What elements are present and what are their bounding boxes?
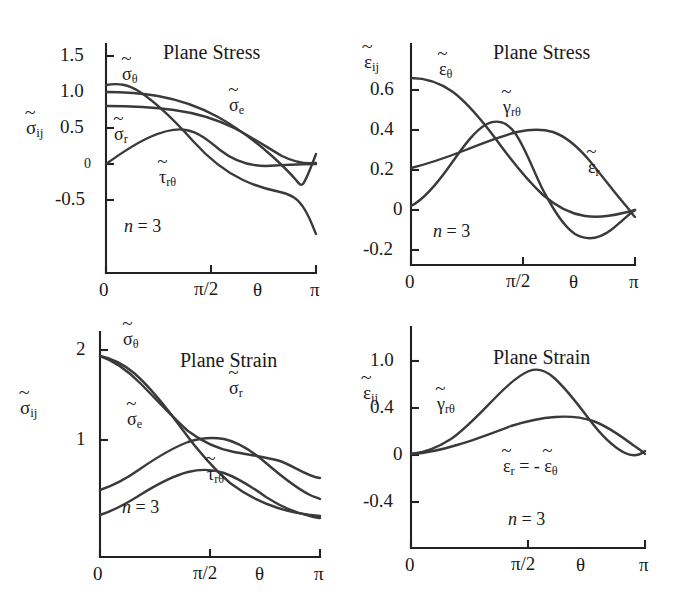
curve-sigma-theta	[100, 356, 320, 516]
panel-bottom-left: σij 2 1 0 π/2 π θ Plane Strain σθ σr σe …	[0, 305, 345, 609]
y-ticklabel-0: 1.0	[370, 350, 394, 369]
x-ticklabel-2: π	[639, 555, 649, 574]
curve-label-gamma-rtheta: γrθ	[437, 395, 455, 415]
panel-title: Plane Stress	[163, 42, 260, 62]
y-ticklabel-1: 0.4	[370, 397, 394, 416]
curve-label-sigma-theta: σθ	[123, 330, 139, 350]
n-annotation: n = 3	[124, 217, 161, 235]
curve-label-sigma-e: σe	[127, 410, 142, 430]
y-axis-title-sub: ij	[372, 59, 379, 74]
y-axis-title-sub: ij	[36, 125, 43, 140]
y-ticklabel-4: -0.5	[55, 189, 85, 208]
y-ticklabel-0: 0.6	[370, 79, 394, 98]
curve-label-sigma-e: σe	[229, 96, 244, 116]
x-ticklabel-2: π	[314, 564, 324, 583]
y-ticklabel-0: 1.5	[60, 45, 84, 64]
panel-top-right: εij 0.6 0.4 0.2 0 -0.2 0 π/2 π θ Plane S…	[345, 0, 685, 305]
panel-top-left: σij 1.5 1.0 0.5 0 -0.5 0 π/2 π θ Plane S…	[0, 0, 345, 305]
y-ticklabel-0: 2	[76, 339, 86, 358]
curve-label-sigma-r: σr	[114, 125, 128, 145]
y-axis-title: σij	[20, 398, 37, 420]
curve-label-epsilon-relation: εr = - εθ	[503, 457, 558, 477]
x-ticklabel-1: π/2	[194, 279, 218, 298]
y-axis-title-symbol: ε	[364, 51, 372, 72]
n-annotation: n = 3	[508, 510, 545, 528]
curve-label-tau-rtheta: τrθ	[207, 465, 224, 485]
y-ticklabel-3: -0.4	[363, 491, 393, 510]
x-ticklabel-1: π/2	[193, 563, 217, 582]
y-axis-title-symbol: σ	[20, 397, 30, 418]
panel-title: Plane Strain	[493, 347, 590, 367]
plot-area-bottom-left	[0, 305, 345, 609]
curve-label-sigma-theta: σθ	[122, 65, 138, 85]
x-ticklabel-0: 0	[405, 272, 415, 291]
panel-title: Plane Stress	[493, 42, 590, 62]
y-ticklabel-2: 0.2	[370, 159, 394, 178]
curve-label-gamma-rtheta: γrθ	[503, 98, 521, 118]
x-ticklabel-0: 0	[405, 555, 415, 574]
panel-bottom-right: εij 1.0 0.4 0 -0.4 0 π/2 π θ Plane Strai…	[345, 305, 685, 609]
y-axis-title: σij	[26, 118, 43, 140]
curve-epsilon-r-eq-minus-epsilon-theta	[411, 417, 645, 454]
y-axis-title: εij	[364, 52, 379, 74]
curve-label-sigma-r: σr	[229, 379, 243, 399]
curve-label-tau-rtheta: τrθ	[159, 168, 176, 188]
x-ticklabel-2: π	[629, 272, 639, 291]
y-ticklabel-1: 0.4	[370, 119, 394, 138]
figure-hrr-angular-distributions: σij 1.5 1.0 0.5 0 -0.5 0 π/2 π θ Plane S…	[0, 0, 685, 609]
y-ticklabel-2: 0	[393, 444, 403, 463]
x-ticklabel-0: 0	[99, 280, 109, 299]
y-axis-title-symbol: σ	[26, 117, 36, 138]
x-axis-title: θ	[255, 564, 264, 583]
y-ticklabel-3: 0	[393, 199, 403, 218]
y-ticklabel-3: 0	[84, 157, 91, 171]
n-annotation: n = 3	[433, 222, 470, 240]
y-ticklabel-1: 1.0	[60, 81, 84, 100]
y-ticklabel-4: -0.2	[363, 239, 393, 258]
x-ticklabel-1: π/2	[506, 271, 530, 290]
curve-tau-rtheta	[106, 129, 316, 166]
y-axis-title-sub: ij	[30, 405, 37, 420]
y-ticklabel-1: 1	[76, 429, 86, 448]
n-annotation: n = 3	[122, 498, 159, 516]
x-axis-title: θ	[253, 280, 262, 299]
x-ticklabel-2: π	[310, 280, 320, 299]
curve-label-epsilon-theta: εθ	[439, 60, 452, 80]
x-ticklabel-1: π/2	[511, 554, 535, 573]
y-ticklabel-2: 0.5	[60, 117, 84, 136]
x-axis-title: θ	[576, 555, 585, 574]
x-axis-title: θ	[569, 272, 578, 291]
x-ticklabel-0: 0	[93, 564, 103, 583]
curve-label-epsilon-r: εr	[588, 158, 600, 178]
